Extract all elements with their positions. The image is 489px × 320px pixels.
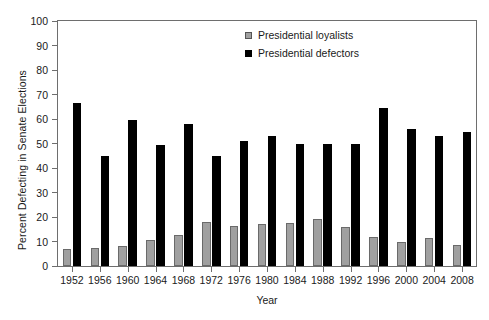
y-tick-label: 90 bbox=[36, 40, 48, 52]
x-tick-mark bbox=[156, 267, 157, 272]
bar-loyal-1980 bbox=[258, 224, 267, 266]
bar-group bbox=[392, 21, 420, 266]
bar-defect-1988 bbox=[323, 144, 332, 267]
x-tick-mark bbox=[211, 267, 212, 272]
y-tick-label: 100 bbox=[30, 15, 48, 27]
bar-loyal-1952 bbox=[63, 249, 72, 266]
y-tick-40: 40 bbox=[0, 162, 57, 174]
y-tick-10: 10 bbox=[0, 236, 57, 248]
bar-loyal-2000 bbox=[397, 242, 406, 267]
y-tick-mark bbox=[52, 192, 57, 193]
chart-legend: Presidential loyalistsPresidential defec… bbox=[245, 26, 359, 62]
y-tick-mark bbox=[52, 45, 57, 46]
y-tick-90: 90 bbox=[0, 40, 57, 52]
y-tick-label: 10 bbox=[36, 236, 48, 248]
bar-loyal-1972 bbox=[202, 222, 211, 266]
y-tick-label: 30 bbox=[36, 187, 48, 199]
bar-defect-1984 bbox=[296, 144, 305, 267]
y-tick-mark bbox=[52, 119, 57, 120]
bar-defect-1992 bbox=[351, 144, 360, 267]
y-tick-mark bbox=[52, 94, 57, 95]
bar-loyal-1996 bbox=[369, 237, 378, 266]
bar-group bbox=[420, 21, 448, 266]
y-tick-mark bbox=[52, 217, 57, 218]
bar-loyal-1960 bbox=[118, 246, 127, 266]
y-tick-label: 50 bbox=[36, 138, 48, 150]
bar-chart: Percent Defecting in Senate Elections 01… bbox=[0, 0, 489, 320]
y-tick-label: 60 bbox=[36, 113, 48, 125]
bar-defect-2008 bbox=[463, 132, 472, 266]
y-tick-60: 60 bbox=[0, 113, 57, 125]
x-tick-mark bbox=[406, 267, 407, 272]
x-tick-mark bbox=[378, 267, 379, 272]
x-tick-mark bbox=[128, 267, 129, 272]
x-tick-mark bbox=[462, 267, 463, 272]
bar-defect-1968 bbox=[184, 124, 193, 266]
bar-loyal-2008 bbox=[453, 245, 462, 266]
x-tick-mark bbox=[239, 267, 240, 272]
bar-group bbox=[114, 21, 142, 266]
bar-defect-1956 bbox=[101, 156, 110, 266]
bar-loyal-1992 bbox=[341, 227, 350, 266]
bar-defect-1972 bbox=[212, 156, 221, 266]
x-tick-mark bbox=[323, 267, 324, 272]
x-tick-mark bbox=[267, 267, 268, 272]
bar-group bbox=[86, 21, 114, 266]
x-axis-title: Year bbox=[57, 294, 477, 306]
legend-item-loyalists: Presidential loyalists bbox=[245, 26, 359, 44]
y-tick-label: 40 bbox=[36, 162, 48, 174]
bar-defect-1960 bbox=[128, 120, 137, 266]
legend-label: Presidential loyalists bbox=[258, 29, 353, 41]
y-tick-mark bbox=[52, 70, 57, 71]
bar-defect-2004 bbox=[435, 136, 444, 266]
y-tick-20: 20 bbox=[0, 211, 57, 223]
x-tick-mark bbox=[183, 267, 184, 272]
bar-group bbox=[58, 21, 86, 266]
y-tick-label: 70 bbox=[36, 89, 48, 101]
bar-defect-1964 bbox=[156, 145, 165, 266]
y-tick-100: 100 bbox=[0, 15, 57, 27]
y-tick-50: 50 bbox=[0, 138, 57, 150]
bar-loyal-1976 bbox=[230, 226, 239, 266]
legend-swatch-icon bbox=[245, 32, 252, 39]
y-tick-label: 0 bbox=[42, 260, 48, 272]
bar-group bbox=[142, 21, 170, 266]
y-tick-mark bbox=[52, 21, 57, 22]
bar-loyal-1968 bbox=[174, 235, 183, 266]
y-tick-mark bbox=[52, 143, 57, 144]
y-tick-mark bbox=[52, 168, 57, 169]
y-tick-label: 80 bbox=[36, 64, 48, 76]
y-tick-80: 80 bbox=[0, 64, 57, 76]
x-tick-mark bbox=[72, 267, 73, 272]
bar-loyal-1988 bbox=[313, 219, 322, 266]
x-tick-mark bbox=[351, 267, 352, 272]
y-tick-mark bbox=[52, 241, 57, 242]
bar-defect-2000 bbox=[407, 129, 416, 266]
bar-group bbox=[197, 21, 225, 266]
bar-group bbox=[365, 21, 393, 266]
y-tick-70: 70 bbox=[0, 89, 57, 101]
legend-label: Presidential defectors bbox=[258, 47, 359, 59]
bar-defect-1980 bbox=[268, 136, 277, 266]
y-tick-label: 20 bbox=[36, 211, 48, 223]
bar-loyal-2004 bbox=[425, 238, 434, 266]
bar-group bbox=[448, 21, 476, 266]
y-tick-30: 30 bbox=[0, 187, 57, 199]
y-tick-0: 0 bbox=[0, 260, 57, 272]
bar-loyal-1984 bbox=[286, 223, 295, 266]
x-tick-mark bbox=[295, 267, 296, 272]
bar-defect-1952 bbox=[73, 103, 82, 266]
legend-item-defectors: Presidential defectors bbox=[245, 44, 359, 62]
bar-loyal-1964 bbox=[146, 240, 155, 266]
bar-group bbox=[169, 21, 197, 266]
bar-loyal-1956 bbox=[91, 248, 100, 266]
bar-defect-1996 bbox=[379, 108, 388, 266]
legend-swatch-icon bbox=[245, 50, 252, 57]
x-tick-mark bbox=[434, 267, 435, 272]
y-tick-mark bbox=[52, 266, 57, 267]
x-tick-mark bbox=[100, 267, 101, 272]
bar-defect-1976 bbox=[240, 141, 249, 266]
x-tick-label: 2008 bbox=[442, 274, 482, 287]
